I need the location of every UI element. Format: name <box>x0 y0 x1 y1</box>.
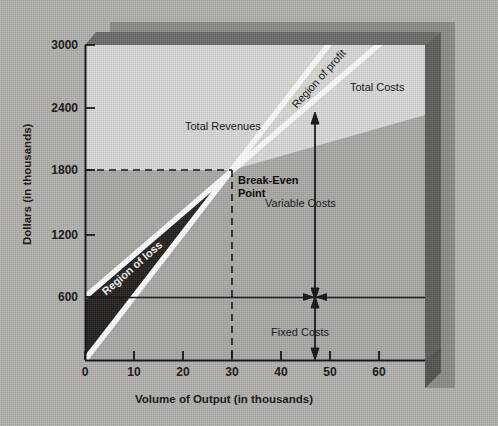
x-tick-50: 50 <box>318 366 342 378</box>
total-costs-label: Total Costs <box>350 82 404 93</box>
x-tick-20: 20 <box>171 366 195 378</box>
y-tick-3000: 3000 <box>32 39 78 51</box>
figure-page: Dollars (in thousands) 3000 2400 1800 12… <box>0 0 498 426</box>
x-tick-10: 10 <box>122 366 146 378</box>
y-axis-title: Dollars (in thousands) <box>22 124 34 245</box>
variable-costs-label: Variable Costs <box>265 198 336 209</box>
x-tick-30: 30 <box>220 366 244 378</box>
chart-canvas <box>0 0 498 426</box>
right-side-shadow <box>425 32 441 388</box>
top-bevel-shadow <box>85 32 441 45</box>
y-tick-1200: 1200 <box>32 229 78 241</box>
break-even-point-label-line2: Point <box>238 188 266 199</box>
y-tick-600: 600 <box>32 291 78 303</box>
x-tick-40: 40 <box>269 366 293 378</box>
y-tick-1800: 1800 <box>32 164 78 176</box>
x-tick-0: 0 <box>73 366 97 378</box>
x-axis-title: Volume of Output (in thousands) <box>135 394 313 406</box>
break-even-point-label-line1: Break-Even <box>238 175 299 186</box>
fixed-costs-label: Fixed Costs <box>271 327 329 338</box>
break-even-chart: Dollars (in thousands) 3000 2400 1800 12… <box>0 0 498 426</box>
y-tick-2400: 2400 <box>32 102 78 114</box>
x-tick-60: 60 <box>367 366 391 378</box>
total-revenues-label: Total Revenues <box>185 121 261 132</box>
